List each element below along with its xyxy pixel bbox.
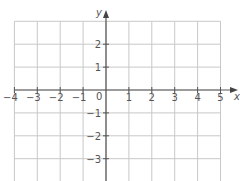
y-tick-label: 1 <box>95 62 101 73</box>
x-tick-label: −4 <box>3 92 18 103</box>
x-tick-label: 2 <box>149 92 155 103</box>
x-tick-label: −2 <box>49 92 64 103</box>
y-tick-label: −1 <box>86 108 101 119</box>
x-tick-label: 5 <box>217 92 223 103</box>
y-axis-arrow-icon <box>103 10 109 18</box>
coordinate-grid: x y −4−3−2−112345 21−1−2−3 0 <box>0 0 240 181</box>
y-tick-label: 2 <box>95 39 101 50</box>
x-tick-label: 1 <box>126 92 132 103</box>
x-tick-label: −1 <box>72 92 87 103</box>
x-axis-label: x <box>233 91 240 102</box>
x-tick-label: 3 <box>172 92 178 103</box>
x-tick-label: −3 <box>26 92 41 103</box>
y-axis-label: y <box>95 7 103 18</box>
origin-label: 0 <box>96 91 102 102</box>
y-tick-label: −3 <box>86 154 101 165</box>
grid-lines <box>14 21 220 181</box>
x-tick-label: 4 <box>194 92 200 103</box>
y-tick-label: −2 <box>86 131 101 142</box>
